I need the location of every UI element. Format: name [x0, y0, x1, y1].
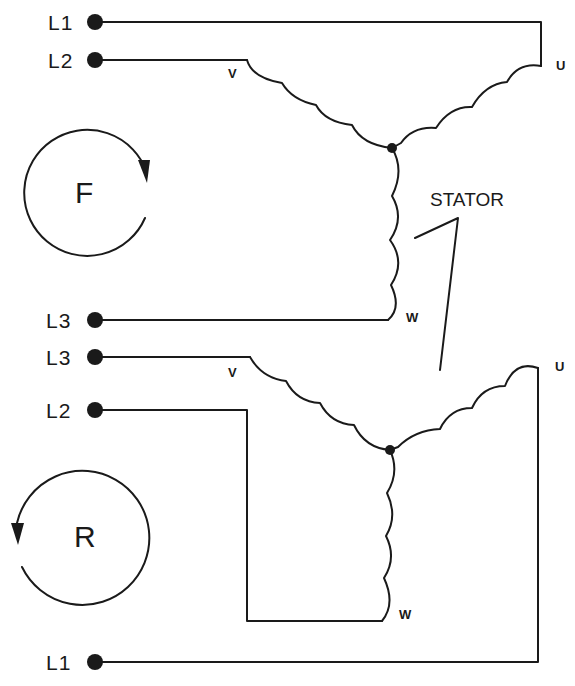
forward-l1-terminal-dot: [87, 14, 103, 30]
forward-star-point-icon: [387, 143, 397, 153]
reverse-l1-label: L1: [46, 652, 71, 673]
forward-rotation-label: F: [75, 178, 93, 208]
stator-pointer: [415, 218, 458, 370]
reverse-rotation-label: R: [74, 522, 96, 552]
forward-l2-label: L2: [48, 50, 73, 71]
forward-v-label: V: [228, 67, 237, 80]
forward-u-label: U: [556, 59, 565, 72]
reverse-w-label: W: [399, 608, 411, 621]
reverse-u-coil: [390, 366, 538, 450]
forward-w-coil: [388, 148, 399, 320]
wiring-diagram: [0, 0, 575, 686]
reverse-l1-terminal-dot: [87, 654, 103, 670]
reverse-l1-wire: [95, 368, 538, 662]
forward-l3-label: L3: [46, 310, 71, 331]
forward-l3-terminal-dot: [87, 312, 103, 328]
reverse-star-point-icon: [385, 445, 395, 455]
reverse-arrowhead-icon: [11, 523, 24, 545]
forward-arrowhead-icon: [138, 160, 150, 183]
forward-v-coil: [247, 60, 392, 148]
reverse-v-label: V: [228, 366, 237, 379]
forward-u-coil: [392, 65, 541, 148]
reverse-v-coil: [250, 357, 390, 450]
reverse-l2-wire: [95, 410, 382, 621]
reverse-w-coil: [382, 450, 394, 621]
reverse-l2-label: L2: [46, 400, 71, 421]
stator-label: STATOR: [430, 190, 504, 209]
forward-w-label: W: [406, 311, 418, 324]
reverse-l3-label: L3: [46, 347, 71, 368]
reverse-u-label: U: [555, 360, 564, 373]
reverse-l3-terminal-dot: [87, 349, 103, 365]
forward-l2-terminal-dot: [87, 52, 103, 68]
forward-l1-label: L1: [48, 12, 73, 33]
reverse-l2-terminal-dot: [87, 402, 103, 418]
